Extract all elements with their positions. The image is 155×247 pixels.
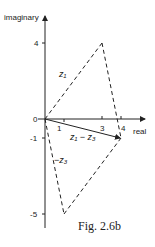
x-tick-label: 3 (100, 124, 105, 133)
complex-plane-diagram: imaginary real 0 4 -1 -5 1 3 4 z₁ z₁ − z… (0, 0, 155, 247)
y-tick-label: -5 (30, 210, 38, 219)
x-tick-label: 4 (121, 124, 126, 133)
parallelogram-side (102, 43, 121, 138)
z1-minus-z3-label: z₁ − z₃ (69, 132, 96, 142)
y-tick-label: 4 (34, 39, 39, 48)
x-tick-label: 1 (57, 124, 62, 133)
figure-caption: Fig. 2.6b (78, 219, 121, 233)
neg-z3-label: −z₃ (54, 155, 68, 165)
y-axis-label: imaginary (4, 13, 39, 22)
vector-neg-z3 (45, 119, 64, 214)
origin-label: 0 (33, 115, 38, 124)
z1-label: z₁ (58, 69, 67, 79)
x-axis-label: real (133, 127, 147, 136)
parallelogram-side (64, 138, 121, 214)
vector-z1 (45, 43, 102, 119)
y-tick-label: -1 (30, 134, 38, 143)
